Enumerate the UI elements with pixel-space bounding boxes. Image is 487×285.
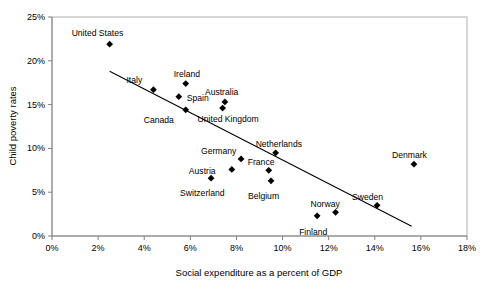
- data-point-label: United Kingdom: [198, 115, 259, 124]
- data-point-label: Belgium: [248, 192, 279, 201]
- y-tick-label: 5%: [32, 188, 45, 197]
- data-point-label: Australia: [205, 88, 238, 97]
- data-point[interactable]: [372, 200, 383, 211]
- data-point-label: Ireland: [174, 70, 200, 79]
- data-point-label: United States: [72, 29, 124, 38]
- data-point[interactable]: [206, 173, 217, 184]
- y-tick-label: 0%: [32, 232, 45, 241]
- plot-border: [52, 17, 467, 236]
- data-point[interactable]: [217, 103, 228, 114]
- x-tick-label: 16%: [412, 244, 430, 253]
- data-point[interactable]: [312, 210, 323, 221]
- x-tick-label: 14%: [366, 244, 384, 253]
- x-tick-label: 6%: [184, 244, 197, 253]
- x-tick-label: 12%: [320, 244, 338, 253]
- data-point[interactable]: [330, 207, 341, 218]
- data-point[interactable]: [180, 78, 191, 89]
- data-point[interactable]: [263, 165, 274, 176]
- data-point[interactable]: [226, 164, 237, 175]
- x-tick-label: 10%: [274, 244, 292, 253]
- data-point[interactable]: [266, 175, 277, 186]
- data-point[interactable]: [148, 84, 159, 95]
- tick-marks: [48, 17, 467, 240]
- x-axis-title: Social expenditure as a percent of GDP: [176, 268, 343, 278]
- data-point[interactable]: [236, 153, 247, 164]
- data-point[interactable]: [104, 39, 115, 50]
- y-tick-label: 25%: [27, 13, 45, 22]
- x-tick-label: 18%: [458, 244, 476, 253]
- y-axis-title: Child poverty rates: [8, 86, 18, 165]
- x-tick-label: 0%: [45, 244, 58, 253]
- data-point[interactable]: [408, 159, 419, 170]
- data-point[interactable]: [270, 147, 281, 158]
- data-point-label: Finland: [299, 228, 327, 237]
- y-tick-label: 20%: [27, 56, 45, 65]
- y-tick-label: 10%: [27, 144, 45, 153]
- y-tick-label: 15%: [27, 100, 45, 109]
- axis-frame: [52, 17, 467, 236]
- data-point-label: Germany: [201, 147, 236, 156]
- scatter-chart-figure: 0%5%10%15%20%25% 0%2%4%6%8%10%12%14%16%1…: [0, 0, 487, 285]
- x-tick-label: 4%: [138, 244, 151, 253]
- x-tick-label: 8%: [230, 244, 243, 253]
- data-point-label: Canada: [144, 116, 174, 125]
- data-point[interactable]: [180, 104, 191, 115]
- data-point[interactable]: [173, 91, 184, 102]
- data-point-label: Italy: [126, 76, 142, 85]
- x-tick-label: 2%: [92, 244, 105, 253]
- data-point-label: Switzerland: [180, 189, 224, 198]
